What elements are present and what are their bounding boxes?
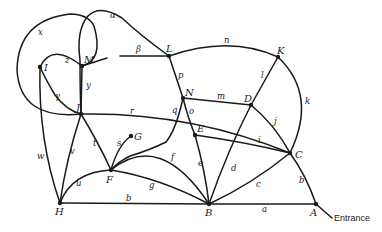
edge-label: β xyxy=(135,44,141,54)
edge-label: γ xyxy=(55,91,61,101)
edge-label: f xyxy=(170,152,176,162)
node-F xyxy=(109,168,113,172)
edge-label: v xyxy=(70,146,75,156)
node-label: F xyxy=(105,174,114,185)
edge-label: a xyxy=(262,204,267,214)
edge-label: i xyxy=(258,135,261,145)
node-label: K xyxy=(276,45,285,56)
node-I xyxy=(38,65,42,69)
edge-label: α xyxy=(110,10,116,20)
edge-label: b xyxy=(126,193,131,203)
edge-label: c xyxy=(256,179,261,189)
node-label: G xyxy=(134,131,142,142)
edge-label: z xyxy=(64,55,70,65)
edge-label: r xyxy=(130,106,135,116)
edge-N-E xyxy=(183,98,195,135)
node-label: C xyxy=(295,149,303,160)
entrance-label: Entrance xyxy=(334,213,370,223)
edge-label: s xyxy=(117,138,122,148)
node-label: B xyxy=(204,207,212,218)
edge-label: x xyxy=(38,27,43,37)
edge-B-D xyxy=(209,105,251,204)
node-label: I xyxy=(43,62,49,73)
edge-label: m xyxy=(217,91,225,101)
edge-label: n xyxy=(224,35,229,45)
node-L xyxy=(167,54,171,58)
node-label: N xyxy=(184,87,195,98)
node-label: J xyxy=(74,102,81,113)
edge-label: k xyxy=(305,96,310,106)
node-label: L xyxy=(165,43,173,54)
node-label: M xyxy=(83,54,95,65)
node-H xyxy=(58,201,62,205)
edge-I-J xyxy=(40,67,81,114)
edge-label: e xyxy=(198,158,203,168)
edge-label: l xyxy=(261,70,264,80)
node-label: H xyxy=(54,206,64,217)
edge-E-C xyxy=(195,135,290,153)
node-B xyxy=(207,202,211,206)
edge-label: q xyxy=(172,105,178,115)
edge-label: u xyxy=(76,178,81,188)
edge-label: p xyxy=(178,70,184,80)
edge-B-C xyxy=(209,153,290,204)
edge-label: b xyxy=(299,175,304,185)
edge-label: g xyxy=(149,180,155,190)
edge-D-K xyxy=(251,57,278,105)
node-label: D xyxy=(243,93,252,104)
edge-label: d xyxy=(231,163,237,173)
edge-label: o xyxy=(189,106,194,116)
edge-label: w xyxy=(37,151,45,161)
edge-label: j xyxy=(272,116,277,126)
edge-H-B xyxy=(60,203,209,204)
entrance-marker: Entrance xyxy=(316,204,370,223)
edge-J-H xyxy=(60,114,81,203)
node-C xyxy=(288,151,292,155)
edge-label: t xyxy=(93,138,97,148)
edge-L-K xyxy=(169,46,278,57)
edge-M-L xyxy=(82,56,169,66)
edges-layer xyxy=(17,10,316,204)
graph-diagram: abbcdefgijklmnopqrstuvwxyzγαβ ABCDEFGHIJ… xyxy=(0,0,382,232)
node-G xyxy=(129,134,133,138)
node-label: A xyxy=(309,207,317,218)
entrance-arrow-line xyxy=(316,204,332,218)
edge-label: y xyxy=(85,80,91,90)
edge-H-F xyxy=(60,170,111,203)
edge-J-C xyxy=(81,114,290,153)
node-label: E xyxy=(196,123,205,134)
